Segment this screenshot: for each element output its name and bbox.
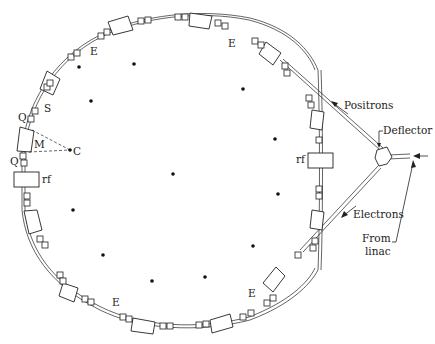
- label-q: Q: [18, 111, 27, 123]
- label-linac: linac: [365, 245, 391, 257]
- magnet: [24, 210, 42, 234]
- label-e: E: [90, 45, 98, 57]
- label-e: E: [228, 37, 236, 49]
- label-e: E: [112, 296, 120, 308]
- label-s: S: [44, 102, 51, 114]
- center-point: [68, 148, 72, 152]
- magnet: [17, 127, 34, 152]
- rf-cavity-right: [308, 153, 333, 168]
- deflector: [375, 147, 392, 166]
- magnet: [210, 314, 233, 333]
- linac-arrow-icon: [413, 153, 420, 159]
- interior-dots: [71, 62, 280, 283]
- magnet: [189, 13, 212, 29]
- magnet: [310, 210, 324, 230]
- label-rf: rf: [42, 173, 52, 185]
- magnet: [263, 267, 285, 292]
- electron-arrow-icon: [341, 211, 348, 218]
- labels: E E E E S Q Q M C rf rf Positrons Deflec…: [10, 37, 433, 308]
- label-electrons: Electrons: [353, 208, 404, 220]
- rf-cavity-left: [14, 172, 39, 187]
- magnet: [108, 16, 133, 35]
- label-positrons: Positrons: [344, 99, 393, 111]
- diagram-canvas: E E E E S Q Q M C rf rf Positrons Deflec…: [0, 0, 435, 344]
- arrows: [331, 101, 428, 242]
- label-rf: rf: [296, 153, 306, 165]
- magnet: [310, 110, 324, 130]
- label-m: M: [34, 138, 45, 150]
- storage-ring-diagram: E E E E S Q Q M C rf rf Positrons Deflec…: [0, 0, 435, 344]
- from-linac-pointer-icon: [411, 160, 416, 168]
- rf-cavities: [14, 153, 333, 187]
- label-c: C: [73, 145, 81, 157]
- label-from: From: [362, 232, 391, 244]
- label-q: Q: [10, 155, 19, 167]
- label-deflector: Deflector: [383, 124, 433, 136]
- magnet: [131, 318, 155, 334]
- label-e: E: [248, 287, 256, 299]
- magnet: [59, 283, 78, 302]
